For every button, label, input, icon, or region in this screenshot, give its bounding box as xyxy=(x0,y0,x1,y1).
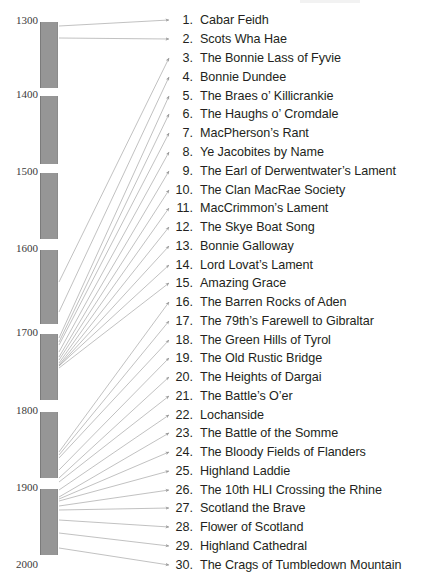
list-item[interactable]: 23. The Battle of the Somme xyxy=(172,424,338,443)
century-bar-1400s xyxy=(40,96,58,164)
connector-line xyxy=(59,58,169,282)
list-item[interactable]: 25. Highland Laddie xyxy=(172,462,290,481)
song-number: 2. xyxy=(172,32,193,46)
song-title: Amazing Grace xyxy=(200,276,286,290)
century-bar-1900s xyxy=(40,489,58,555)
century-bar-1500s xyxy=(40,173,58,239)
song-number-spacer xyxy=(193,145,200,159)
song-number-spacer xyxy=(193,32,200,46)
connector-line xyxy=(59,265,169,366)
list-item[interactable]: 13. Bonnie Galloway xyxy=(172,237,294,256)
song-number: 8. xyxy=(172,145,193,159)
song-number-spacer xyxy=(193,445,200,459)
list-item[interactable]: 26. The 10th HLI Crossing the Rhine xyxy=(172,481,382,500)
list-item[interactable]: 17. The 79th’s Farewell to Gibraltar xyxy=(172,312,374,331)
list-item[interactable]: 27. Scotland the Brave xyxy=(172,499,306,518)
list-item[interactable]: 6. The Haughs o’ Cromdale xyxy=(172,105,338,124)
list-item[interactable]: 1. Cabar Feidh xyxy=(172,11,269,30)
list-item[interactable]: 19. The Old Rustic Bridge xyxy=(172,349,322,368)
connector-line xyxy=(59,533,169,546)
song-number-spacer xyxy=(193,314,200,328)
song-number: 12. xyxy=(172,220,193,234)
song-number: 19. xyxy=(172,351,193,365)
connector-line xyxy=(59,152,169,352)
song-title: The Bonnie Lass of Fyvie xyxy=(200,51,341,65)
song-number-spacer xyxy=(193,501,200,515)
connector-line xyxy=(59,520,169,527)
song-number-spacer xyxy=(193,295,200,309)
song-number-spacer xyxy=(193,333,200,347)
song-number-spacer xyxy=(193,370,200,384)
timeline-century-bars xyxy=(40,0,59,586)
song-title: The Earl of Derwentwater’s Lament xyxy=(200,164,396,178)
list-item[interactable]: 20. The Heights of Dargai xyxy=(172,368,321,387)
connector-line xyxy=(59,321,169,455)
song-title: The Braes o’ Killicrankie xyxy=(200,89,333,103)
song-title: Scotland the Brave xyxy=(200,501,306,515)
song-number: 28. xyxy=(172,520,193,534)
list-item[interactable]: 14. Lord Lovat’s Lament xyxy=(172,256,313,275)
song-title: Lord Lovat’s Lament xyxy=(200,258,313,272)
song-number-spacer xyxy=(193,520,200,534)
song-title: The 10th HLI Crossing the Rhine xyxy=(200,483,382,497)
connector-line xyxy=(59,396,169,482)
connector-line xyxy=(59,490,169,506)
song-number: 6. xyxy=(172,107,193,121)
song-number-spacer xyxy=(193,426,200,440)
list-item[interactable]: 22. Lochanside xyxy=(172,406,264,425)
connector-line xyxy=(59,96,169,338)
list-item[interactable]: 4. Bonnie Dundee xyxy=(172,68,286,87)
axis-label-1300: 1300 xyxy=(16,15,38,26)
song-title: The Barren Rocks of Aden xyxy=(200,295,347,309)
song-number: 22. xyxy=(172,408,193,422)
list-item[interactable]: 28. Flower of Scotland xyxy=(172,518,303,537)
connector-line xyxy=(59,302,169,452)
list-item[interactable]: 7. MacPherson’s Rant xyxy=(172,124,309,143)
song-number-spacer xyxy=(193,558,200,572)
list-item[interactable]: 29. Highland Cathedral xyxy=(172,537,307,556)
song-title: MacPherson’s Rant xyxy=(200,126,309,140)
song-number: 13. xyxy=(172,239,193,253)
connector-line xyxy=(59,358,169,470)
list-item[interactable]: 15. Amazing Grace xyxy=(172,274,286,293)
song-number: 1. xyxy=(172,13,193,27)
axis-label-1800: 1800 xyxy=(16,405,38,416)
list-item[interactable]: 3. The Bonnie Lass of Fyvie xyxy=(172,49,341,68)
song-number-spacer xyxy=(193,89,200,103)
song-number: 5. xyxy=(172,89,193,103)
song-number-spacer xyxy=(193,389,200,403)
song-number-spacer xyxy=(193,351,200,365)
list-item[interactable]: 11. MacCrimmon’s Lament xyxy=(172,199,328,218)
song-title: The Bloody Fields of Flanders xyxy=(200,445,366,459)
connector-line xyxy=(59,133,169,345)
list-item[interactable]: 30. The Crags of Tumbledown Mountain xyxy=(172,556,401,575)
century-bar-1700s xyxy=(40,334,58,400)
song-number: 20. xyxy=(172,370,193,384)
list-item[interactable]: 10. The Clan MacRae Society xyxy=(172,181,345,200)
list-item[interactable]: 18. The Green Hills of Tyrol xyxy=(172,331,331,350)
song-title: The Clan MacRae Society xyxy=(200,183,345,197)
list-item[interactable]: 24. The Bloody Fields of Flanders xyxy=(172,443,366,462)
song-number: 18. xyxy=(172,333,193,347)
list-item[interactable]: 21. The Battle’s O’er xyxy=(172,387,293,406)
song-title: MacCrimmon’s Lament xyxy=(200,201,328,215)
song-title: Ye Jacobites by Name xyxy=(200,145,324,159)
song-title: The 79th’s Farewell to Gibraltar xyxy=(200,314,374,328)
song-number: 10. xyxy=(172,183,193,197)
list-item[interactable]: 8. Ye Jacobites by Name xyxy=(172,143,324,162)
connector-line xyxy=(59,77,169,312)
song-title: Highland Cathedral xyxy=(200,539,307,553)
list-item[interactable]: 2. Scots Wha Hae xyxy=(172,30,287,49)
list-item[interactable]: 12. The Skye Boat Song xyxy=(172,218,315,237)
song-number-spacer xyxy=(193,483,200,497)
song-number-spacer xyxy=(193,13,200,27)
connector-line xyxy=(59,452,169,499)
list-item[interactable]: 5. The Braes o’ Killicrankie xyxy=(172,87,333,106)
list-item[interactable]: 16. The Barren Rocks of Aden xyxy=(172,293,347,312)
list-item[interactable]: 9. The Earl of Derwentwater’s Lament xyxy=(172,162,396,181)
connector-line xyxy=(59,38,169,39)
song-number: 30. xyxy=(172,558,193,572)
song-title: The Old Rustic Bridge xyxy=(200,351,322,365)
song-title: The Battle of the Somme xyxy=(200,426,338,440)
song-title: The Skye Boat Song xyxy=(200,220,315,234)
